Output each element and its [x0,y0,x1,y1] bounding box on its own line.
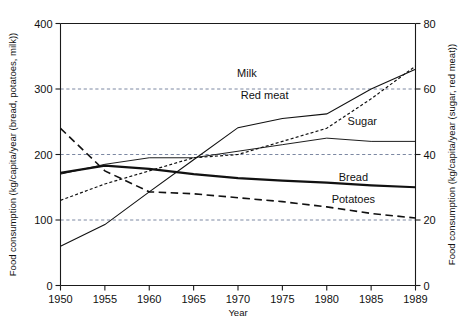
series-group [61,66,416,246]
y-ticklabel-left: 400 [34,18,52,30]
x-ticklabel: 1989 [403,293,427,305]
y-axis-title-left: Food consumption (kg/capita/year (bread,… [7,33,18,276]
series-label-milk: Milk [237,67,257,79]
x-ticklabel: 1960 [137,293,161,305]
y-ticklabel-right: 80 [424,18,436,30]
y-ticklabel-left: 0 [46,280,52,292]
y-ticklabel-right: 20 [424,214,436,226]
y-ticklabel-right: 40 [424,149,436,161]
series-label-potatoes: Potatoes [332,193,376,205]
x-axis-title: Year [228,307,247,318]
y-ticklabel-right: 0 [424,280,430,292]
x-ticklabel: 1975 [270,293,294,305]
y-ticklabel-left: 300 [34,83,52,95]
y-ticklabel-left: 100 [34,214,52,226]
series-label-red-meat: Red meat [241,89,289,101]
y-ticklabel-right: 60 [424,83,436,95]
y-axis-right-ticks: 020406080 [416,18,436,292]
x-ticklabel: 1965 [181,293,205,305]
y-ticklabel-left: 200 [34,149,52,161]
y-axis-title-right: Food consumption (kg/capita/year (sugar,… [446,44,457,265]
line-chart: 0100200300400020406080195019551960196519… [0,0,464,334]
x-axis-ticks: 195019551960196519701975198019851989 [48,286,427,305]
chart-container: 0100200300400020406080195019551960196519… [0,0,464,334]
series-label-bread: Bread [339,171,368,183]
x-ticklabel: 1985 [359,293,383,305]
x-ticklabel: 1950 [48,293,72,305]
series-line-sugar [61,138,416,174]
x-ticklabel: 1970 [226,293,250,305]
x-ticklabel: 1955 [93,293,117,305]
series-label-sugar: Sugar [348,115,378,127]
y-axis-left-ticks: 0100200300400 [34,18,60,292]
x-ticklabel: 1980 [315,293,339,305]
